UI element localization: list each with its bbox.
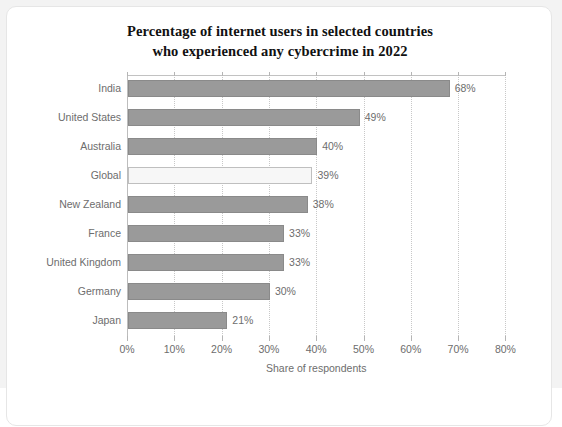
bar-row[interactable]: Australia40%	[7, 133, 553, 162]
x-tick-label: 10%	[152, 343, 196, 355]
bottom-tick-70	[458, 336, 459, 341]
bar-row[interactable]: France33%	[7, 220, 553, 249]
category-label: United States	[7, 109, 121, 126]
bar[interactable]	[128, 109, 360, 126]
x-tick-label: 70%	[436, 343, 480, 355]
x-tick-label: 40%	[294, 343, 338, 355]
category-label: France	[7, 225, 121, 242]
bar[interactable]	[128, 138, 317, 155]
x-tick-label: 50%	[342, 343, 386, 355]
category-label: Germany	[7, 283, 121, 300]
bar[interactable]	[128, 254, 284, 271]
bar[interactable]	[128, 312, 227, 329]
bar-value-label: 30%	[275, 283, 296, 300]
category-label: Global	[7, 167, 121, 184]
bar-value-label: 39%	[317, 167, 338, 184]
category-label: Australia	[7, 138, 121, 155]
bar-row[interactable]: India68%	[7, 75, 553, 104]
bar[interactable]	[128, 283, 270, 300]
bar-row[interactable]: United Kingdom33%	[7, 249, 553, 278]
bar[interactable]	[128, 196, 308, 213]
bottom-tick-10	[174, 336, 175, 341]
bar[interactable]	[128, 80, 450, 97]
x-tick-label: 60%	[389, 343, 433, 355]
bottom-tick-60	[411, 336, 412, 341]
bottom-tick-20	[222, 336, 223, 341]
bar-row[interactable]: Germany30%	[7, 278, 553, 307]
bar-value-label: 40%	[322, 138, 343, 155]
plot: India68%United States49%Australia40%Glob…	[7, 7, 553, 427]
bar-value-label: 33%	[289, 254, 310, 271]
bar-row[interactable]: Japan21%	[7, 307, 553, 336]
bar[interactable]	[128, 225, 284, 242]
x-axis-title: Share of respondents	[127, 362, 505, 374]
bar-rows: India68%United States49%Australia40%Glob…	[7, 75, 553, 336]
bottom-tick-30	[269, 336, 270, 341]
bar[interactable]	[128, 167, 312, 184]
x-tick-label: 0%	[105, 343, 149, 355]
bar-value-label: 49%	[365, 109, 386, 126]
bar-value-label: 33%	[289, 225, 310, 242]
bottom-tick-40	[316, 336, 317, 341]
bar-row[interactable]: United States49%	[7, 104, 553, 133]
bar-row[interactable]: New Zealand38%	[7, 191, 553, 220]
x-tick-label: 80%	[483, 343, 527, 355]
bottom-tick-50	[364, 336, 365, 341]
category-label: Japan	[7, 312, 121, 329]
x-tick-label: 30%	[247, 343, 291, 355]
bar-value-label: 68%	[455, 80, 476, 97]
bar-row[interactable]: Global39%	[7, 162, 553, 191]
category-label: New Zealand	[7, 196, 121, 213]
category-label: India	[7, 80, 121, 97]
category-label: United Kingdom	[7, 254, 121, 271]
bar-value-label: 21%	[232, 312, 253, 329]
bar-value-label: 38%	[313, 196, 334, 213]
x-tick-label: 20%	[200, 343, 244, 355]
chart-card: Percentage of internet users in selected…	[6, 6, 552, 426]
bottom-tick-80	[505, 336, 506, 341]
bottom-tick-0	[127, 336, 128, 341]
